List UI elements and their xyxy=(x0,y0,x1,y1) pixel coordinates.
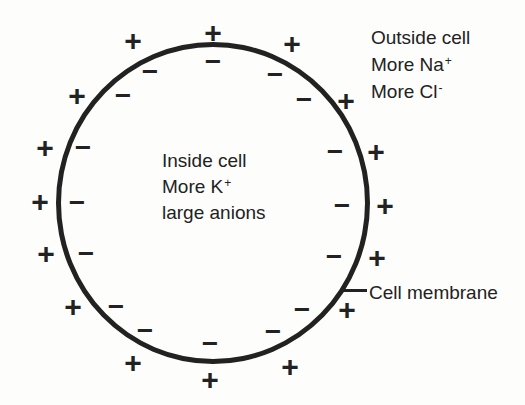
plus-sign: + xyxy=(36,133,54,163)
plus-sign: + xyxy=(124,26,142,56)
outside-cell-label: Outside cell More Na+ More Cl- xyxy=(371,24,470,105)
minus-sign: − xyxy=(267,61,283,89)
minus-sign: − xyxy=(78,240,94,268)
minus-sign: − xyxy=(327,138,343,166)
chloride-charge-superscript: - xyxy=(439,81,443,95)
minus-sign: − xyxy=(296,86,312,114)
plus-sign: + xyxy=(376,191,394,221)
minus-sign: − xyxy=(294,296,310,324)
plus-sign: + xyxy=(37,239,55,269)
plus-sign: + xyxy=(281,352,299,382)
plus-sign: + xyxy=(204,18,222,48)
minus-sign: − xyxy=(75,134,91,162)
outside-cell-title: Outside cell xyxy=(371,24,470,51)
minus-sign: − xyxy=(69,189,85,217)
outside-chloride-line: More Cl- xyxy=(371,78,470,105)
minus-sign: − xyxy=(137,317,153,345)
minus-sign: − xyxy=(265,318,281,346)
minus-sign: − xyxy=(142,58,158,86)
plus-sign: + xyxy=(68,81,86,111)
plus-sign: + xyxy=(201,365,219,395)
inside-cell-title: Inside cell xyxy=(162,148,266,174)
minus-sign: − xyxy=(115,82,131,110)
minus-sign: − xyxy=(108,293,124,321)
plus-sign: + xyxy=(64,292,82,322)
plus-sign: + xyxy=(283,29,301,59)
minus-sign: − xyxy=(334,192,350,220)
potassium-charge-superscript: + xyxy=(224,176,231,190)
inside-cell-label: Inside cell More K+ large anions xyxy=(162,148,266,226)
sodium-charge-superscript: + xyxy=(445,54,452,68)
plus-sign: + xyxy=(338,295,356,325)
minus-sign: − xyxy=(326,243,342,271)
minus-sign: − xyxy=(202,330,218,358)
minus-sign: − xyxy=(205,48,221,76)
plus-sign: + xyxy=(31,187,49,217)
plus-sign: + xyxy=(368,243,386,273)
plus-sign: + xyxy=(124,348,142,378)
plus-sign: + xyxy=(367,137,385,167)
cell-membrane-label: Cell membrane xyxy=(369,280,498,306)
outside-sodium-line: More Na+ xyxy=(371,51,470,78)
cell-charge-diagram: ++++++++++++++++−−−−−−−−−−−−−−−− Outside… xyxy=(0,0,525,405)
inside-potassium-line: More K+ xyxy=(162,174,266,200)
plus-sign: + xyxy=(337,86,355,116)
inside-anions-line: large anions xyxy=(162,200,266,226)
